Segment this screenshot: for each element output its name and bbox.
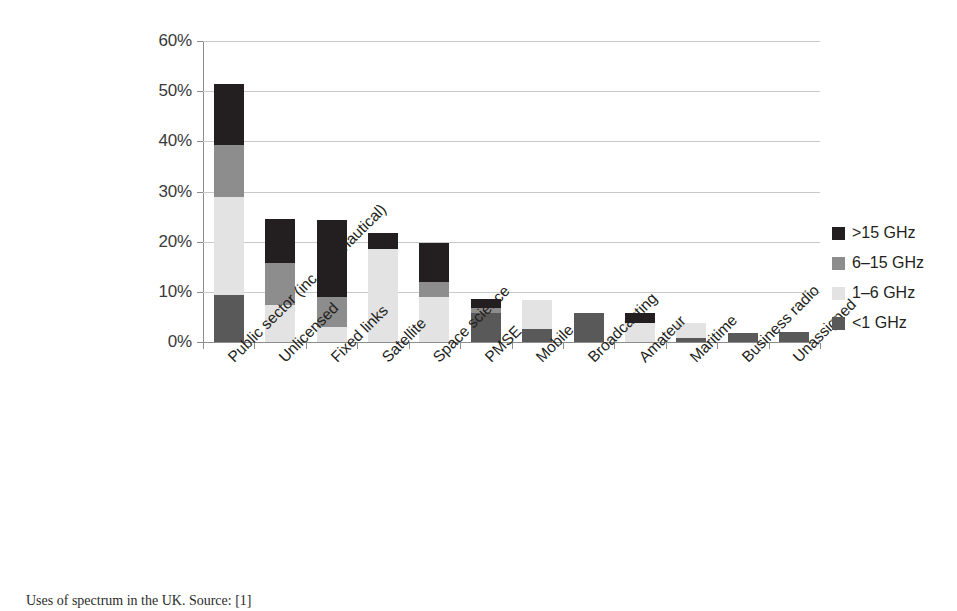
legend-label: 6–15 GHz bbox=[852, 255, 924, 271]
figure-uses-of-spectrum: 0%10%20%30%40%50%60% Public sector (inc.… bbox=[0, 0, 957, 611]
bar-stack bbox=[214, 84, 244, 342]
legend-item: >15 GHz bbox=[832, 218, 957, 248]
bar-segment bbox=[265, 219, 295, 263]
legend-swatch bbox=[832, 287, 845, 300]
bar-segment bbox=[214, 295, 244, 342]
legend-item: 6–15 GHz bbox=[832, 248, 957, 278]
y-tick-label: 40% bbox=[140, 132, 192, 149]
legend-swatch bbox=[832, 227, 845, 240]
legend-label: 1–6 GHz bbox=[852, 285, 915, 301]
y-tick-label: 50% bbox=[140, 82, 192, 99]
figure-caption: Uses of spectrum in the UK. Source: [1] bbox=[26, 592, 252, 609]
bar-segment bbox=[368, 233, 398, 250]
y-tick-label: 0% bbox=[140, 333, 192, 350]
bar-segment bbox=[419, 243, 449, 282]
legend-item: 1–6 GHz bbox=[832, 278, 957, 308]
legend: >15 GHz6–15 GHz1–6 GHz<1 GHz bbox=[832, 218, 957, 338]
y-tick-label: 10% bbox=[140, 283, 192, 300]
legend-item: <1 GHz bbox=[832, 308, 957, 338]
legend-swatch bbox=[832, 257, 845, 270]
legend-label: <1 GHz bbox=[852, 315, 907, 331]
bar-segment bbox=[214, 84, 244, 145]
y-tick-label: 20% bbox=[140, 233, 192, 250]
bar-segment bbox=[214, 197, 244, 296]
x-tick-mark bbox=[203, 343, 204, 349]
y-tick-label: 30% bbox=[140, 183, 192, 200]
legend-label: >15 GHz bbox=[852, 225, 916, 241]
bar-segment bbox=[419, 297, 449, 342]
bar-segment bbox=[419, 282, 449, 297]
y-tick-label: 60% bbox=[140, 32, 192, 49]
bar-segment bbox=[214, 145, 244, 197]
bar-segment bbox=[522, 300, 552, 329]
bar-stack bbox=[522, 300, 552, 342]
legend-swatch bbox=[832, 317, 845, 330]
